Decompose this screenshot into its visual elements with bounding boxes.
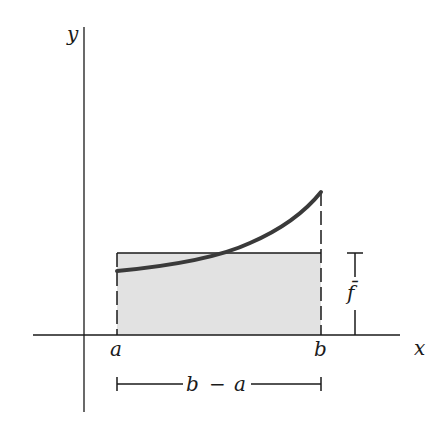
width-label-b: b	[186, 372, 199, 396]
width-label-a: a	[234, 372, 246, 396]
mean-value-rectangle	[117, 253, 321, 335]
x-axis-label: x	[414, 336, 425, 360]
y-axis-label: y	[66, 22, 79, 46]
width-label-minus: −	[209, 372, 226, 396]
point-b-label: b	[314, 337, 327, 361]
point-a-label: a	[110, 337, 122, 361]
fbar-label: f̄	[345, 280, 358, 305]
mean-value-diagram: f̄ b − a y x a b	[0, 0, 447, 438]
